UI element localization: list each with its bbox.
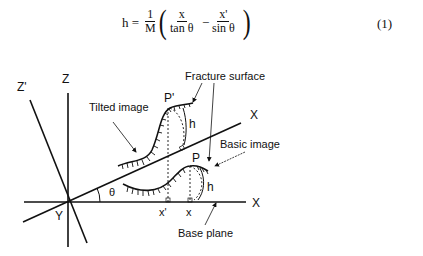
tilted-image-label: Tilted image <box>89 101 149 113</box>
x-tilted-axis-label: X <box>250 108 258 122</box>
z-tilted-axis-label: Z' <box>17 80 27 94</box>
base-plane-label: Base plane <box>178 227 233 239</box>
theta-arc <box>97 188 100 202</box>
x-tilted-proj-label: x' <box>159 206 167 218</box>
h-upper-label: h <box>189 117 196 131</box>
p-basic-label: P <box>192 151 200 165</box>
theta-label: θ <box>109 186 115 198</box>
basic-image-arrow <box>215 152 245 166</box>
y-axis-label: Y <box>55 209 63 223</box>
fracture-surface-arrow-1 <box>193 83 202 102</box>
fracture-surface-label: Fracture surface <box>185 70 265 82</box>
geometry-diagram: Z Z' X X Y θ P' P x' x h h Tilted image … <box>0 0 423 256</box>
tilted-image-arrow <box>113 122 136 152</box>
h-lower-label: h <box>207 180 214 194</box>
x-base-axis-label: X <box>252 196 260 210</box>
z-axis-label: Z <box>62 72 69 86</box>
basic-image-label: Basic image <box>220 138 280 150</box>
h-lower-line <box>198 168 204 200</box>
x-tilted-axis <box>23 123 241 222</box>
p-tilted-arc <box>170 108 184 145</box>
x-basic-proj-label: x <box>186 206 192 218</box>
p-tilted-label: P' <box>164 91 174 105</box>
base-plane-arrow <box>205 203 216 225</box>
fracture-surface-arrow-2 <box>209 83 214 161</box>
p-basic-arc <box>190 166 202 200</box>
